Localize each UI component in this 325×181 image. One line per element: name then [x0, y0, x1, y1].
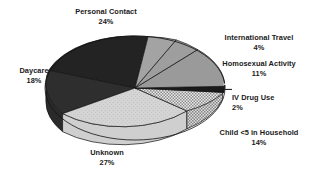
pie-label-daycare-name: Daycare	[6, 66, 62, 76]
pie-label-international-travel-name: International Travel	[196, 33, 322, 43]
pie-label-unknown-name: Unknown	[72, 148, 142, 158]
pie-label-child-under-5: Child <5 in Household 14%	[196, 128, 322, 148]
pie-label-personal-contact: Personal Contact 24%	[60, 7, 152, 27]
pie-label-unknown: Unknown 27%	[72, 148, 142, 168]
pie-label-iv-drug-use-name: IV Drug Use	[232, 93, 320, 103]
pie-label-daycare: Daycare 18%	[6, 66, 62, 86]
pie-label-personal-contact-name: Personal Contact	[60, 7, 152, 17]
pie-label-child-under-5-name: Child <5 in Household	[196, 128, 322, 138]
pie-label-daycare-value: 18%	[6, 76, 62, 86]
pie-label-child-under-5-value: 14%	[196, 138, 322, 148]
pie-label-international-travel: International Travel 4%	[196, 33, 322, 53]
pie-chart-figure: Personal Contact 24% International Trave…	[0, 0, 325, 181]
pie-label-international-travel-value: 4%	[196, 43, 322, 53]
pie-label-personal-contact-value: 24%	[60, 17, 152, 27]
pie-label-iv-drug-use: IV Drug Use 2%	[232, 93, 320, 113]
pie-label-homosexual-activity-value: 11%	[196, 69, 322, 79]
pie-label-unknown-value: 27%	[72, 158, 142, 168]
pie-label-homosexual-activity-name: Homosexual Activity	[196, 59, 322, 69]
pie-label-iv-drug-use-value: 2%	[232, 103, 320, 113]
pie-label-homosexual-activity: Homosexual Activity 11%	[196, 59, 322, 79]
pie-chart-graphic	[0, 0, 325, 181]
